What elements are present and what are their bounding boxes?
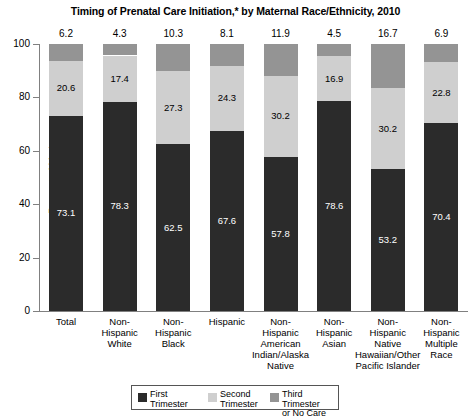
y-axis-tick-label-20: 20 xyxy=(0,253,30,263)
x-axis-category-label-line: Black xyxy=(140,338,206,349)
y-axis-tick-label-0: 0 xyxy=(0,306,30,316)
bar-value-second-trimester: 24.3 xyxy=(210,93,244,103)
legend-item-third-trimester-or-no-care[interactable]: Third Trimester or No Care xyxy=(270,389,338,416)
bar-segment-third-trimester-or-no-care xyxy=(210,44,244,66)
bar-value-second-trimester: 17.4 xyxy=(103,74,137,84)
bar-value-second-trimester: 30.2 xyxy=(371,124,405,134)
bar-group: 73.120.6 xyxy=(49,44,83,311)
bar-segment-first-trimester: 62.5 xyxy=(156,144,190,311)
bar-segment-first-trimester: 73.1 xyxy=(49,116,83,311)
bar-segment-third-trimester-or-no-care xyxy=(424,44,458,62)
bar-stack: 67.624.3 xyxy=(210,44,244,311)
legend-swatch-second-trimester xyxy=(208,393,217,402)
bar-segment-first-trimester: 57.8 xyxy=(264,157,298,311)
bar-segment-second-trimester: 27.3 xyxy=(156,71,190,144)
bar-stack: 78.616.9 xyxy=(317,44,351,311)
bar-value-first-trimester: 53.2 xyxy=(371,235,405,245)
bar-value-first-trimester: 70.4 xyxy=(424,212,458,222)
legend-item-second-trimester[interactable]: Second Trimester xyxy=(208,389,258,409)
bar-segment-first-trimester: 67.6 xyxy=(210,131,244,311)
bar-value-second-trimester: 16.9 xyxy=(317,74,351,84)
bar-segment-third-trimester-or-no-care xyxy=(103,44,137,55)
legend-swatch-first-trimester xyxy=(138,393,147,402)
bar-segment-third-trimester-or-no-care xyxy=(371,44,405,89)
bar-value-third-trimester-or-no-care: 6.2 xyxy=(36,28,96,39)
bar-value-second-trimester: 27.3 xyxy=(156,103,190,113)
bar-segment-second-trimester: 30.2 xyxy=(371,88,405,169)
bar-value-first-trimester: 62.5 xyxy=(156,223,190,233)
x-axis-category-label-line: Multiple xyxy=(408,338,471,349)
bar-stack: 53.230.2 xyxy=(371,44,405,311)
bar-value-first-trimester: 67.6 xyxy=(210,216,244,226)
x-axis-category-label-line: Pacific Islander xyxy=(355,360,421,371)
y-axis-tick-label-60: 60 xyxy=(0,146,30,156)
bar-segment-third-trimester-or-no-care xyxy=(264,44,298,76)
legend-item-first-trimester[interactable]: First Trimester xyxy=(138,389,188,409)
x-axis-category-label: Non-HispanicMultipleRace xyxy=(408,316,471,360)
bar-segment-third-trimester-or-no-care xyxy=(317,44,351,56)
bar-segment-first-trimester: 70.4 xyxy=(424,123,458,311)
legend-swatch-third-trimester-or-no-care xyxy=(270,393,279,402)
y-axis-tick-0 xyxy=(33,311,39,312)
x-axis-category-label-line: Non- xyxy=(408,316,471,327)
bar-group: 70.422.8 xyxy=(424,44,458,311)
x-axis-category-label-line: Hispanic xyxy=(140,327,206,338)
bar-stack: 73.120.6 xyxy=(49,44,83,311)
bar-group: 62.527.3 xyxy=(156,44,190,311)
bar-value-first-trimester: 78.6 xyxy=(317,201,351,211)
bar-value-second-trimester: 20.6 xyxy=(49,83,83,93)
bar-stack: 62.527.3 xyxy=(156,44,190,311)
y-axis-tick-label-40: 40 xyxy=(0,199,30,209)
bar-group: 78.616.9 xyxy=(317,44,351,311)
bar-value-third-trimester-or-no-care: 8.1 xyxy=(197,28,257,39)
bar-segment-third-trimester-or-no-care xyxy=(156,44,190,72)
bar-segment-first-trimester: 78.6 xyxy=(317,101,351,311)
bar-stack: 78.317.4 xyxy=(103,44,137,311)
bar-segment-first-trimester: 78.3 xyxy=(103,102,137,311)
x-axis-category-label-line: Hispanic xyxy=(408,327,471,338)
bar-value-third-trimester-or-no-care: 4.5 xyxy=(304,28,364,39)
bar-value-first-trimester: 78.3 xyxy=(103,201,137,211)
plot-area: Percent of Mothers 73.120.678.317.462.52… xyxy=(39,44,468,311)
bar-stack: 57.830.2 xyxy=(264,44,298,311)
x-axis-category-label-line: Indian/Alaska xyxy=(248,349,314,360)
bar-stack: 70.422.8 xyxy=(424,44,458,311)
bar-value-third-trimester-or-no-care: 6.9 xyxy=(411,28,471,39)
bar-segment-second-trimester: 16.9 xyxy=(317,56,351,101)
bar-group: 57.830.2 xyxy=(264,44,298,311)
chart-title: Timing of Prenatal Care Initiation,* by … xyxy=(0,5,471,17)
bar-group: 67.624.3 xyxy=(210,44,244,311)
bar-segment-second-trimester: 24.3 xyxy=(210,66,244,131)
bar-group: 78.317.4 xyxy=(103,44,137,311)
bar-segment-second-trimester: 20.6 xyxy=(49,61,83,116)
x-axis-category-label-line: Race xyxy=(408,349,471,360)
bar-segment-second-trimester: 22.8 xyxy=(424,62,458,123)
bar-segment-second-trimester: 17.4 xyxy=(103,56,137,102)
prenatal-care-stacked-bar-chart: Timing of Prenatal Care Initiation,* by … xyxy=(0,0,471,416)
x-axis-line xyxy=(39,311,468,312)
x-axis-category-label-line: Native xyxy=(248,360,314,371)
bar-value-second-trimester: 22.8 xyxy=(424,88,458,98)
legend-label-third-trimester-or-no-care: Third Trimester or No Care xyxy=(282,389,338,416)
bar-segment-first-trimester: 53.2 xyxy=(371,169,405,311)
legend-label-first-trimester: First Trimester xyxy=(150,389,188,409)
legend-label-second-trimester: Second Trimester xyxy=(220,389,258,409)
y-axis-tick-label-100: 100 xyxy=(0,39,30,49)
bar-value-third-trimester-or-no-care: 11.9 xyxy=(251,28,311,39)
bar-value-first-trimester: 73.1 xyxy=(49,208,83,218)
bar-segment-second-trimester: 30.2 xyxy=(264,76,298,157)
bar-value-first-trimester: 57.8 xyxy=(264,229,298,239)
bar-value-third-trimester-or-no-care: 10.3 xyxy=(143,28,203,39)
bar-group: 53.230.2 xyxy=(371,44,405,311)
chart-legend: First TrimesterSecond TrimesterThird Tri… xyxy=(131,385,339,410)
bar-segment-third-trimester-or-no-care xyxy=(49,44,83,61)
bar-value-third-trimester-or-no-care: 4.3 xyxy=(90,28,150,39)
bar-value-third-trimester-or-no-care: 16.7 xyxy=(358,28,418,39)
y-axis-tick-label-80: 80 xyxy=(0,92,30,102)
bar-value-second-trimester: 30.2 xyxy=(264,111,298,121)
